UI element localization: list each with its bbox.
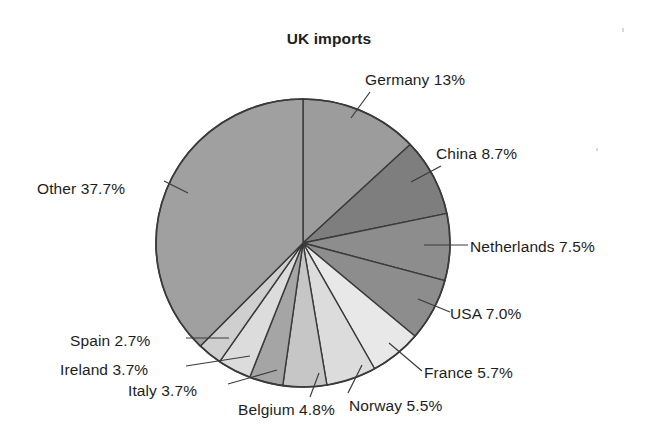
scan-speck bbox=[596, 148, 598, 151]
pie-label-norway: Norway 5.5% bbox=[349, 397, 442, 415]
pie-chart-canvas bbox=[0, 0, 658, 447]
pie-label-italy: Italy 3.7% bbox=[128, 382, 197, 400]
pie-label-spain: Spain 2.7% bbox=[70, 332, 150, 350]
pie-label-germany: Germany 13% bbox=[365, 71, 465, 89]
pie-label-other: Other 37.7% bbox=[37, 180, 125, 198]
scan-speck bbox=[622, 28, 624, 32]
pie-chart-figure: UK imports Germany 13%China 8.7%Netherla… bbox=[0, 0, 658, 447]
pie-label-belgium: Belgium 4.8% bbox=[238, 401, 335, 419]
pie-label-ireland: Ireland 3.7% bbox=[60, 361, 148, 379]
pie-label-netherlands: Netherlands 7.5% bbox=[470, 238, 595, 256]
pie-label-china: China 8.7% bbox=[436, 145, 517, 163]
pie-label-france: France 5.7% bbox=[424, 364, 513, 382]
pie-label-usa: USA 7.0% bbox=[450, 305, 521, 323]
